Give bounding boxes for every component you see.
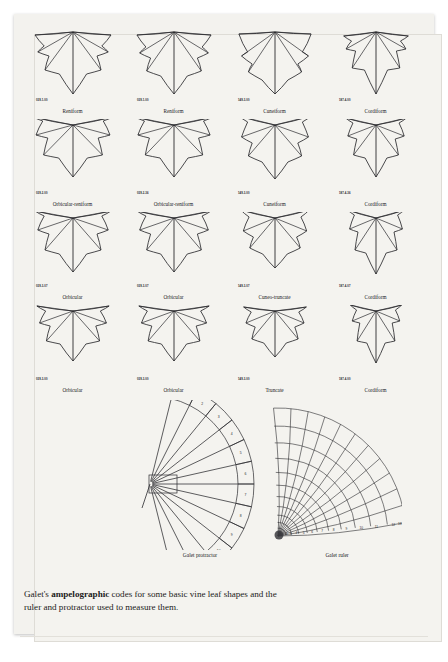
leaf-shape-code: 187-4-00 — [339, 378, 351, 381]
leaf-vein — [376, 311, 395, 341]
protractor-tick-label: 8 — [240, 514, 242, 518]
leaf-shape-cell: 149-3-07Cuneo-truncate — [224, 210, 325, 303]
leaf-vein — [73, 32, 101, 70]
leaf-vein — [357, 311, 376, 341]
protractor-ray — [152, 416, 206, 482]
leaf-shape-name: Cordiform — [325, 108, 426, 114]
protractor-tick-label: 6 — [244, 472, 246, 476]
protractor-tick-label: 7 — [244, 493, 246, 497]
leaf-outline — [31, 212, 115, 286]
leaf-shape-cell: 149-3-00Cuneiform — [224, 117, 325, 210]
ruler-tick-label: 9 — [345, 527, 347, 531]
leaf-shape-code: 039-3-00 — [36, 378, 48, 381]
leaf-shape-name: Cordiform — [325, 201, 426, 207]
leaf-vein — [174, 32, 208, 53]
leaf-vein — [248, 32, 275, 72]
leaf-shape-name: Orbicular-reniform — [123, 201, 224, 207]
protractor-tick-label: 2 — [201, 402, 203, 406]
leaf-vein — [352, 32, 376, 68]
leaf-shape-code: 149-3-00 — [238, 378, 250, 381]
ruler-label: Galet ruler — [272, 552, 402, 558]
leaf-vein — [73, 306, 109, 311]
leaf-shape-grid: 039-1-00Reniform039-1-00Reniform149-3-00… — [22, 24, 426, 396]
protractor-ray — [153, 465, 236, 484]
leaf-shape-cell: 187-4-36Cordiform — [325, 117, 426, 210]
leaf-outline — [233, 305, 317, 379]
leaf-vein — [275, 218, 300, 248]
leaf-vein — [355, 218, 376, 250]
leaf-vein — [174, 32, 201, 71]
ruler-tick-label: 7 — [321, 529, 323, 533]
leaf-vein — [45, 32, 73, 70]
leaf-vein — [275, 32, 308, 56]
leaf-vein — [275, 311, 298, 339]
leaf-outline — [233, 26, 317, 100]
leaf-vein — [145, 125, 174, 155]
leaf-shape-name: Cuneiform — [224, 201, 325, 207]
protractor-ray — [151, 486, 189, 550]
leaf-shape-code: 187-4-07 — [339, 285, 351, 288]
leaf-shape-name: Orbicular — [123, 294, 224, 300]
protractor-label: Galet protractor — [140, 552, 260, 558]
leaf-vein — [136, 32, 173, 35]
leaf-outline — [132, 305, 216, 379]
leaf-shape-cell: 039-1-00Reniform — [22, 24, 123, 117]
leaf-outline — [31, 119, 115, 193]
leaf-outline — [132, 119, 216, 193]
leaf-vein — [36, 125, 73, 135]
leaf-vein — [35, 32, 73, 35]
leaf-vein — [146, 32, 173, 71]
ruler-ray — [274, 408, 280, 536]
caption-prefix: Galet's — [24, 589, 51, 599]
leaf-vein — [36, 306, 72, 311]
leaf-shape-name: Reniform — [123, 108, 224, 114]
protractor-drawing: 123456789101112 — [140, 400, 260, 550]
leaf-outline — [132, 26, 216, 100]
protractor-ray — [151, 487, 172, 550]
leaf-vein — [249, 218, 274, 248]
leaf-outline — [334, 119, 418, 193]
leaf-shape-cell: 039-2-36Orbicular-reniform — [123, 117, 224, 210]
protractor-sector — [171, 400, 196, 405]
leaf-shape-cell: 187-4-00Cordiform — [325, 24, 426, 117]
leaf-shape-code: 039-3-07 — [36, 285, 48, 288]
leaf-shape-code: 039-3-00 — [137, 378, 149, 381]
galet-protractor-figure: 123456789101112Galet protractor — [140, 400, 260, 554]
leaf-shape-cell: 149-3-00Cuneiform — [224, 24, 325, 117]
caption-bold-term: ampelographic — [51, 589, 109, 599]
leaf-shape-cell: 039-3-00Orbicular — [22, 303, 123, 396]
leaf-outline — [334, 212, 418, 286]
leaf-shape-name: Cuneiform — [224, 108, 325, 114]
leaf-shape-name: Orbicular-reniform — [22, 201, 123, 207]
leaf-shape-code: 039-2-00 — [36, 192, 48, 195]
leaf-vein — [243, 218, 275, 231]
leaf-shape-cell: 187-4-07Cordiform — [325, 210, 426, 303]
protractor-tick-label: 3 — [218, 415, 220, 419]
leaf-shape-cell: 039-1-00Reniform — [123, 24, 224, 117]
leaf-shape-cell: 039-3-00Orbicular — [123, 303, 224, 396]
leaf-shape-name: Reniform — [22, 108, 123, 114]
leaf-shape-name: Cuneo-truncate — [224, 294, 325, 300]
leaf-shape-name: Orbicular — [22, 387, 123, 393]
protractor-ray — [153, 485, 236, 504]
leaf-shape-code: 187-4-00 — [339, 99, 351, 102]
leaf-shape-code: 039-1-00 — [137, 99, 149, 102]
leaf-vein — [43, 125, 72, 155]
protractor-ray — [151, 400, 172, 481]
ruler-tick-label: 10 — [359, 526, 363, 530]
leaf-vein — [376, 218, 397, 250]
leaf-vein — [275, 218, 307, 231]
protractor-sector — [206, 538, 232, 550]
leaf-shape-code: 149-3-00 — [238, 192, 250, 195]
figure-page: 039-1-00Reniform039-1-00Reniform149-3-00… — [0, 0, 448, 662]
leaf-shape-code: 039-1-00 — [36, 99, 48, 102]
leaf-vein — [73, 125, 110, 135]
leaf-vein — [376, 32, 408, 36]
leaf-outline — [334, 305, 418, 379]
protractor-tick-label: 9 — [231, 533, 233, 537]
ruler-drawing: 2345678910111213 — [272, 392, 402, 550]
leaf-vein — [174, 306, 209, 311]
leaf-vein — [139, 32, 173, 53]
leaf-shape-code: 039-3-07 — [137, 285, 149, 288]
leaf-vein — [174, 125, 203, 155]
